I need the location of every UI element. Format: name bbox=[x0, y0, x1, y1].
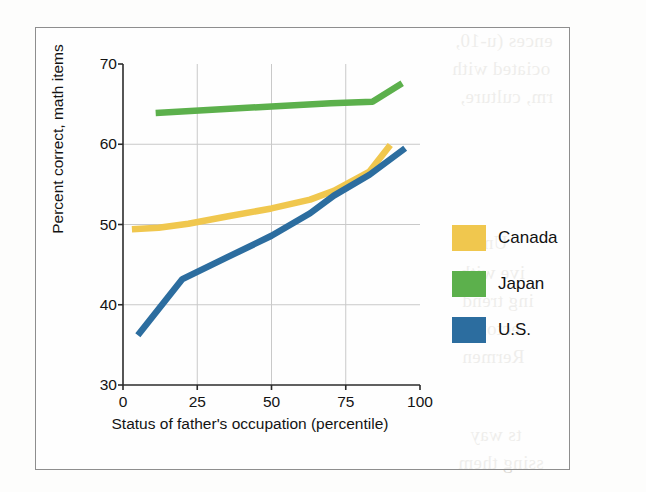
legend-label: Canada bbox=[498, 228, 558, 248]
legend-swatch-icon bbox=[452, 225, 486, 251]
y-tick-label-text: 40 bbox=[83, 296, 117, 314]
y-tick-label-text: 50 bbox=[83, 216, 117, 234]
y-axis-title: Percent correct, math items bbox=[49, 9, 67, 269]
x-tick-label: 50 bbox=[252, 393, 292, 411]
chart-legend: CanadaJapanU.S. bbox=[452, 215, 558, 353]
y-tick-label-text: 70 bbox=[83, 55, 117, 73]
legend-swatch-icon bbox=[452, 317, 486, 343]
x-tick-label: 100 bbox=[400, 393, 440, 411]
x-tick-label: 25 bbox=[177, 393, 217, 411]
y-tick-label-text: 30 bbox=[83, 376, 117, 394]
legend-item-us: U.S. bbox=[452, 307, 558, 353]
x-tick-label: 75 bbox=[326, 393, 366, 411]
y-tick-label-text: 60 bbox=[83, 135, 117, 153]
series-line-japan bbox=[156, 83, 403, 113]
x-tick-label: 0 bbox=[103, 393, 143, 411]
legend-item-japan: Japan bbox=[452, 261, 558, 307]
legend-item-canada: Canada bbox=[452, 215, 558, 261]
legend-swatch-icon bbox=[452, 271, 486, 297]
x-axis-title: Status of father's occupation (percentil… bbox=[60, 415, 440, 433]
line-chart: Percent correct, math items Status of fa… bbox=[0, 0, 646, 492]
legend-label: Japan bbox=[498, 274, 544, 294]
legend-label: U.S. bbox=[498, 320, 531, 340]
